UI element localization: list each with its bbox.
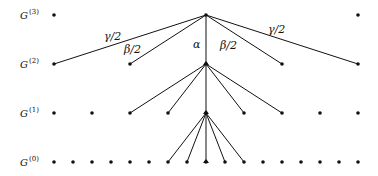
graph-node [337,160,341,164]
tree-edge [54,15,206,64]
graph-node [299,160,303,164]
graph-node [356,111,360,115]
graph-node [356,62,360,66]
graph-node [128,160,132,164]
graph-node [356,13,360,17]
edge-weight-gamma-left: γ/2 [104,30,121,43]
level-superscript: (3) [29,8,39,16]
edge-weight-beta-right: β/2 [219,39,237,52]
graph-node [90,160,94,164]
edge-weight-gamma-right: γ/2 [268,23,285,36]
graph-node [242,160,246,164]
graph-node [71,160,75,164]
graph-node [261,160,265,164]
level-label: G [20,157,28,168]
tree-edge [168,113,206,162]
graph-node [147,160,151,164]
graph-node [90,111,94,115]
level-superscript: (1) [29,106,39,114]
hub-node [203,110,209,114]
hub-node [203,159,209,163]
graph-node [242,111,246,115]
graph-node [318,160,322,164]
graph-node [185,160,189,164]
graph-node [52,111,56,115]
graph-node [52,160,56,164]
level-label: G [20,108,28,119]
level-label: G [20,10,28,21]
tree-edge [206,113,244,162]
graph-node [166,160,170,164]
graph-node [280,160,284,164]
tree-edge [206,113,225,162]
graph-node [280,111,284,115]
level-label: G [20,59,28,70]
tree-edge [130,64,206,113]
graph-node [204,13,208,17]
edge-weight-alpha: α [193,38,201,51]
graph-node [356,160,360,164]
tree-edge [206,64,282,113]
tree-edge [168,64,206,113]
hub-node [203,61,209,65]
graph-node [128,62,132,66]
hierarchy-diagram: G(3)G(2)G(1)G(0) γ/2β/2αβ/2γ/2 [0,0,378,176]
graph-node [166,111,170,115]
graph-node [52,62,56,66]
graph-node [318,111,322,115]
tree-edge [187,113,206,162]
tree-edge [206,64,244,113]
graph-node [109,160,113,164]
level-superscript: (2) [29,57,39,65]
graph-node [223,160,227,164]
level-superscript: (0) [29,155,39,163]
graph-node [52,13,56,17]
graph-node [280,62,284,66]
graph-node [128,111,132,115]
edge-weight-beta-left: β/2 [123,43,141,56]
